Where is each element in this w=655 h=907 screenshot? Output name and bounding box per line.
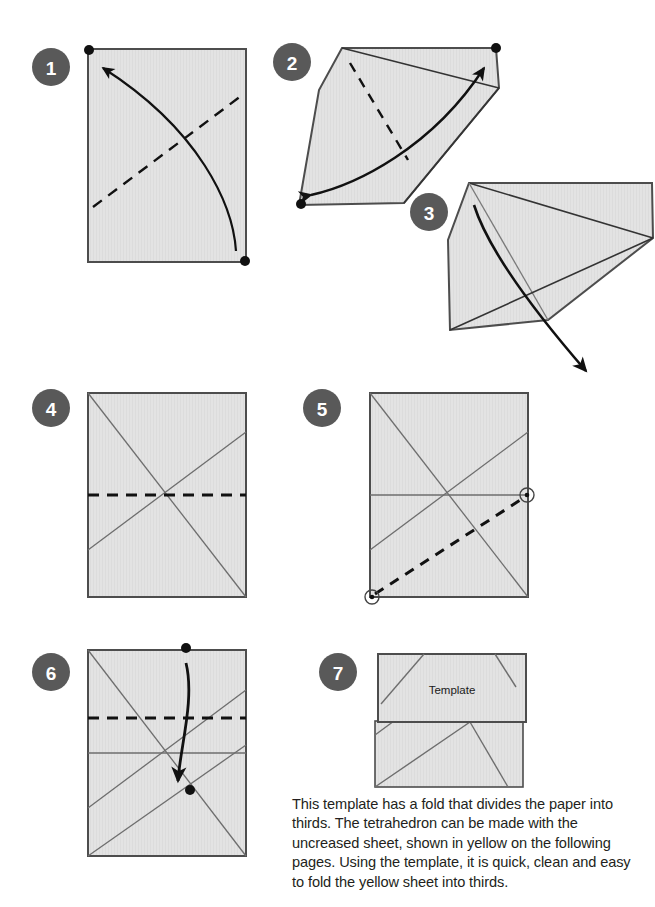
- step-7-figure: Template: [375, 654, 526, 787]
- caption-paragraph: This template has a fold that divides th…: [292, 795, 644, 892]
- step-6-badge: 6: [32, 653, 70, 691]
- step-4-badge: 4: [32, 389, 70, 427]
- paper-sheet-lower-panel: [375, 721, 523, 787]
- alignment-reference-dot-right: [525, 493, 530, 498]
- step-badge-label: 5: [317, 399, 328, 420]
- step-badge-label: 4: [46, 399, 57, 420]
- step-2-badge: 2: [273, 43, 311, 81]
- step-badge-label: 1: [46, 58, 57, 79]
- corner-reference-dot-top-right: [491, 43, 501, 53]
- corner-reference-dot-top-left: [84, 45, 94, 55]
- corner-reference-dot-top: [181, 643, 191, 653]
- alignment-reference-dot-center: [185, 785, 195, 795]
- template-label: Template: [429, 684, 476, 696]
- corner-reference-dot-bottom-right: [240, 256, 250, 266]
- step-6-figure: [88, 643, 246, 856]
- alignment-reference-dot-bottom-left: [370, 595, 375, 600]
- step-3-badge: 3: [410, 193, 448, 231]
- step-4-figure: [88, 393, 246, 597]
- step-badge-label: 2: [287, 53, 298, 74]
- step-1-badge: 1: [32, 48, 70, 86]
- step-badge-label: 6: [46, 663, 57, 684]
- corner-reference-dot-bottom-left: [296, 199, 306, 209]
- step-1-figure: [84, 45, 250, 266]
- step-5-badge: 5: [303, 389, 341, 427]
- step-badge-label: 7: [333, 663, 344, 684]
- step-5-figure: [365, 393, 534, 604]
- step-badge-label: 3: [424, 203, 435, 224]
- step-7-badge: 7: [319, 653, 357, 691]
- instruction-diagram: 1 2 3 4: [0, 0, 655, 907]
- paper-sheet: [88, 49, 246, 262]
